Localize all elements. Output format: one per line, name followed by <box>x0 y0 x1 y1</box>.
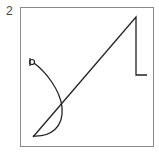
diagram-frame <box>21 8 154 147</box>
diagram-canvas <box>0 0 159 153</box>
curved-arc <box>33 63 62 136</box>
diagonal-line-with-step <box>33 17 147 137</box>
